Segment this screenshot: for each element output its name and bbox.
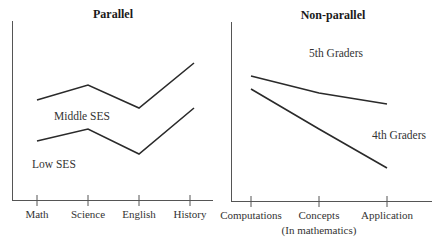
- fifth-graders-label: 5th Graders: [309, 47, 363, 59]
- tick-label-concepts: Concepts: [299, 209, 340, 221]
- low-ses-label: Low SES: [32, 158, 76, 170]
- tick-label-history: History: [174, 208, 208, 220]
- charts-canvas: Parallel Middle SES Low SES Math Science…: [0, 0, 440, 241]
- tick-label-application: Application: [361, 209, 413, 221]
- fifth-graders-line: [251, 76, 387, 104]
- non-parallel-chart: Non-parallel 5th Graders 4th Graders Com…: [220, 8, 432, 237]
- middle-ses-line: [37, 63, 194, 108]
- tick-label-computations: Computations: [220, 209, 282, 221]
- x-axis-title: (In mathematics): [282, 224, 357, 237]
- parallel-chart-title: Parallel: [93, 7, 134, 21]
- parallel-chart: Parallel Middle SES Low SES Math Science…: [12, 7, 213, 220]
- non-parallel-chart-title: Non-parallel: [301, 8, 366, 22]
- tick-label-english: English: [122, 208, 156, 220]
- fourth-graders-label: 4th Graders: [372, 129, 426, 141]
- tick-label-science: Science: [71, 208, 105, 220]
- middle-ses-label: Middle SES: [54, 110, 110, 122]
- tick-label-math: Math: [25, 208, 49, 220]
